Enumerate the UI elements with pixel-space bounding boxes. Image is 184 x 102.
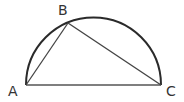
- point-label-b: B: [58, 2, 68, 18]
- geometry-diagram: A B C: [0, 0, 184, 102]
- semicircle-arc: [26, 17, 161, 85]
- point-label-a: A: [8, 83, 18, 99]
- point-label-c: C: [166, 83, 176, 99]
- segment-bc: [68, 23, 161, 85]
